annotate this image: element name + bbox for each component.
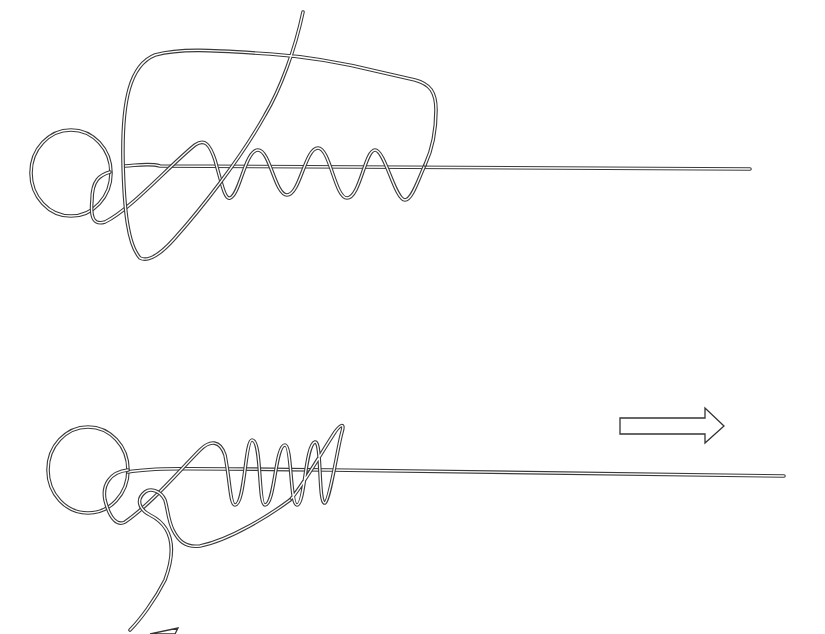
stage-2-knot xyxy=(48,408,784,634)
knot-diagram xyxy=(0,0,825,634)
ring-loop-1 xyxy=(31,130,111,216)
stage-1-knot xyxy=(31,12,750,259)
pull-arrow-right-icon xyxy=(620,408,724,443)
pull-arrow-left-partial-icon xyxy=(150,628,178,634)
wraps-1 xyxy=(92,142,425,223)
tag-end-2 xyxy=(130,490,290,630)
large-return-loop-1 xyxy=(123,12,436,259)
ring-loop-2 xyxy=(48,427,128,513)
